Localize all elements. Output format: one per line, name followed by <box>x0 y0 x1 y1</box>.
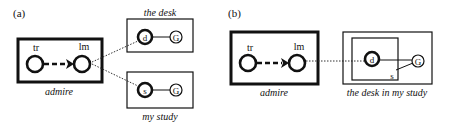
verb-caption: admire <box>45 86 74 97</box>
arrowhead-icon <box>66 59 74 69</box>
panel-a-np-desk: the desk d G <box>127 7 193 52</box>
np-caption: the desk in my study <box>347 87 428 98</box>
trajector-circle <box>240 55 256 71</box>
ground-label: G <box>173 33 180 43</box>
panel-b: (b) tr lm admire d G s the desk in my st… <box>228 7 432 98</box>
head-label: s <box>143 86 147 96</box>
panel-b-label: (b) <box>228 7 241 20</box>
trajector-label: tr <box>33 42 40 53</box>
landmark-label: lm <box>79 41 90 52</box>
trajector-circle <box>27 56 43 72</box>
landmark-circle <box>74 56 90 72</box>
panel-b-verb-box: tr lm admire <box>231 32 318 98</box>
landmark-label: lm <box>294 41 305 52</box>
inner-label: s <box>390 71 394 81</box>
panel-b-np: d G s the desk in my study <box>343 32 432 98</box>
head-label: d <box>143 33 148 43</box>
panel-a-verb-box: tr lm admire <box>18 39 102 97</box>
panel-a: (a) tr lm admire the desk d G <box>13 7 193 122</box>
landmark-circle <box>289 55 305 71</box>
panel-a-label: (a) <box>13 7 26 20</box>
trajector-label: tr <box>247 42 254 53</box>
panel-a-np-study: s G my study <box>127 72 193 122</box>
np-caption: my study <box>142 111 178 122</box>
ground-label: G <box>415 57 422 67</box>
ground-label: G <box>173 86 180 96</box>
diagram-canvas: (a) tr lm admire the desk d G <box>0 0 449 128</box>
np-caption: the desk <box>144 7 177 18</box>
arrowhead-icon <box>281 58 289 68</box>
head-label: d <box>370 55 375 65</box>
verb-caption: admire <box>260 87 289 98</box>
